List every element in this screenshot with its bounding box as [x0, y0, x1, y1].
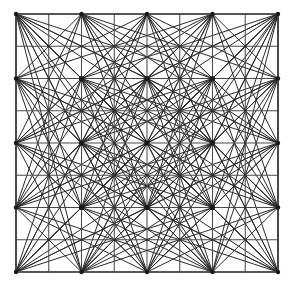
- lattice-hub-node: [14, 76, 18, 80]
- lattice-hub-node: [14, 205, 18, 209]
- lattice-minor-node: [178, 109, 181, 112]
- lattice-hub-node: [14, 270, 18, 274]
- lattice-minor-node: [113, 142, 116, 145]
- lattice-hub-node: [79, 270, 83, 274]
- lattice-minor-node: [146, 174, 149, 177]
- lattice-minor-node: [47, 77, 50, 80]
- lattice-hub-node: [79, 140, 84, 145]
- lattice-hub-node: [276, 270, 280, 274]
- lattice-minor-node: [244, 206, 247, 209]
- lattice-minor-node: [178, 206, 181, 209]
- lattice-minor-node: [178, 77, 181, 80]
- lattice-minor-node: [244, 77, 247, 80]
- lattice-minor-node: [178, 45, 181, 48]
- lattice-hub-node: [276, 76, 280, 80]
- lattice-minor-node: [244, 238, 247, 241]
- lattice-hub-node: [144, 140, 149, 145]
- geometric-grid-diagram: [0, 0, 295, 286]
- lattice-minor-node: [113, 206, 116, 209]
- lattice-minor-node: [80, 109, 83, 112]
- lattice-minor-node: [211, 109, 214, 112]
- lattice-hub-node: [79, 205, 84, 210]
- lattice-minor-node: [113, 109, 116, 112]
- lattice-minor-node: [47, 206, 50, 209]
- lattice-minor-node: [244, 174, 247, 177]
- lattice-minor-node: [178, 174, 181, 177]
- lattice-minor-node: [211, 45, 214, 48]
- lattice-minor-node: [113, 77, 116, 80]
- lattice-minor-node: [178, 238, 181, 241]
- lattice-minor-node: [178, 142, 181, 145]
- lattice-hub-node: [79, 12, 83, 16]
- lattice-minor-node: [113, 174, 116, 177]
- figure-root: [0, 0, 295, 286]
- lattice-hub-node: [145, 270, 149, 274]
- lattice-hub-node: [14, 12, 18, 16]
- lattice-hub-node: [276, 205, 280, 209]
- lattice-minor-node: [244, 142, 247, 145]
- lattice-hub-node: [210, 76, 215, 81]
- lattice-hub-node: [145, 12, 149, 16]
- lattice-hub-node: [210, 270, 214, 274]
- lattice-hub-node: [144, 76, 149, 81]
- lattice-minor-node: [244, 45, 247, 48]
- lattice-hub-node: [144, 205, 149, 210]
- lattice-minor-node: [113, 45, 116, 48]
- lattice-minor-node: [146, 238, 149, 241]
- lattice-minor-node: [244, 109, 247, 112]
- lattice-minor-node: [80, 45, 83, 48]
- lattice-minor-node: [146, 109, 149, 112]
- lattice-minor-node: [211, 174, 214, 177]
- lattice-hub-node: [276, 141, 280, 145]
- lattice-hub-node: [276, 12, 280, 16]
- lattice-minor-node: [80, 174, 83, 177]
- lattice-hub-node: [210, 140, 215, 145]
- lattice-hub-node: [210, 205, 215, 210]
- lattice-minor-node: [47, 45, 50, 48]
- lattice-minor-node: [47, 109, 50, 112]
- lattice-hub-node: [14, 141, 18, 145]
- lattice-hub-node: [210, 12, 214, 16]
- lattice-minor-node: [47, 174, 50, 177]
- lattice-minor-node: [113, 238, 116, 241]
- lattice-minor-node: [211, 238, 214, 241]
- lattice-minor-node: [80, 238, 83, 241]
- lattice-minor-node: [146, 45, 149, 48]
- lattice-minor-node: [47, 238, 50, 241]
- lattice-minor-node: [47, 142, 50, 145]
- lattice-hub-node: [79, 76, 84, 81]
